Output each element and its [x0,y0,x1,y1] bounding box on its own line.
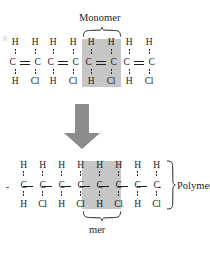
double-bond-icon [95,61,107,66]
atom-label: H [6,38,24,49]
atom-label: H [120,38,138,49]
monomer-unit-highlighted: H H C C H Cl [82,38,120,88]
figure-canvas: Monomer H H C C H Cl [0,0,210,256]
polymer-column: H C Cl [33,160,52,210]
polymer-column-highlighted: H C H [90,160,109,210]
polymer-column: H C H [14,160,33,210]
double-bond-icon [133,61,145,66]
bond-vertical [80,171,81,178]
monomer-label: Monomer [79,12,120,23]
bond-vertical [23,191,24,198]
polymer-left-terminal: - [6,181,9,192]
double-bond-icon [19,61,31,66]
bond-vertical [120,49,138,57]
atom-label: H [26,38,44,49]
atom-label: Cl [64,77,82,88]
bond-vertical [118,191,119,198]
atom-carbon: C [90,179,109,191]
polymer-column-highlighted: H C Cl [109,160,128,210]
atom-label: H [120,77,138,88]
monomer-unit: H H C C H Cl [44,38,82,88]
atom-label: H [128,160,147,171]
atom-label: H [109,160,128,171]
atom-label: H [82,77,100,88]
atom-carbon: C [6,58,19,68]
atom-label: H [82,38,100,49]
atom-label: Cl [102,77,120,88]
bond-vertical [99,191,100,198]
bond-vertical [6,49,24,57]
atom-label: H [90,199,109,210]
bond-vertical [137,191,138,198]
atom-label: Cl [140,77,158,88]
atom-carbon: C [145,58,158,68]
bond-vertical [42,191,43,198]
monomer-brace-icon [82,26,122,37]
atom-label: Cl [109,199,128,210]
bond-vertical [99,171,100,178]
atom-carbon: C [52,179,71,191]
atom-label: Cl [147,199,166,210]
bond-vertical [42,171,43,178]
bond-vertical [64,49,82,57]
bond-vertical [137,171,138,178]
atom-carbon: C [33,179,52,191]
polymer-right-terminal: - [158,181,161,192]
atom-label: H [147,160,166,171]
bond-vertical [23,171,24,178]
bond-vertical [80,191,81,198]
mer-brace-icon [82,211,122,222]
bond-vertical [118,171,119,178]
atom-carbon: C [128,179,147,191]
atom-label: H [6,77,24,88]
atom-carbon: C [31,58,44,68]
atom-label: Cl [71,199,90,210]
atom-carbon: C [107,58,120,68]
atom-label: H [71,160,90,171]
atom-carbon: C [109,179,128,191]
mer-label: mer [89,224,105,235]
bond-vertical [44,49,62,57]
polymerization-arrow-icon [62,104,102,150]
atom-label: H [52,160,71,171]
bond-vertical [61,171,62,178]
atom-carbon: C [120,58,133,68]
atom-label: H [44,77,62,88]
monomer-unit: H H C C H Cl [6,38,44,88]
monomer-chain: H H C C H Cl H H C [0,38,210,88]
bond-vertical [156,171,157,178]
atom-carbon: C [69,58,82,68]
bond-vertical [82,49,100,57]
atom-label: H [14,199,33,210]
bond-vertical [102,49,120,57]
atom-carbon: C [82,58,95,68]
atom-label: H [102,38,120,49]
polymer-column: H C Cl [71,160,90,210]
atom-label: Cl [33,199,52,210]
atom-label: H [64,38,82,49]
bond-vertical [156,191,157,198]
polymer-brace-icon [166,160,176,210]
atom-label: H [52,199,71,210]
polymer-column: H C H [128,160,147,210]
atom-label: H [128,199,147,210]
bond-vertical [140,49,158,57]
monomer-unit: H H C C H Cl [120,38,158,88]
polymer-label: Polymer [177,180,210,191]
atom-label: H [33,160,52,171]
double-bond-icon [57,61,69,66]
atom-label: H [44,38,62,49]
polymer-column: H C Cl [147,160,166,210]
atom-label: Cl [26,77,44,88]
bond-vertical [61,191,62,198]
bond-vertical [26,49,44,57]
atom-label: H [140,38,158,49]
atom-label: H [14,160,33,171]
atom-label: H [90,160,109,171]
atom-carbon: C [147,179,166,191]
atom-carbon: C [44,58,57,68]
polymer-column: H C H [52,160,71,210]
atom-carbon: C [71,179,90,191]
atom-carbon: C [14,179,33,191]
